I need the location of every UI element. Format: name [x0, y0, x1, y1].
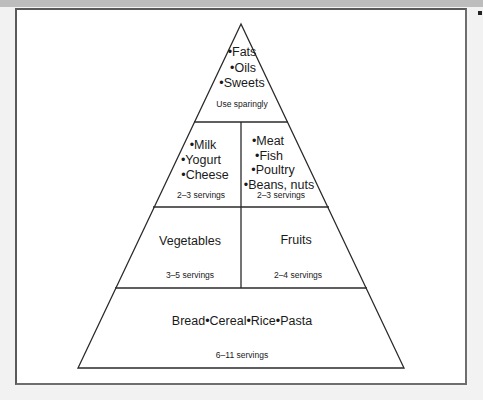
food-pyramid-outline	[0, 0, 483, 400]
tier1-item-fats: •Fats	[228, 45, 257, 60]
tier2-right-item-poultry: •Poultry	[251, 163, 294, 178]
tier2-left-servings: 2–3 servings	[177, 190, 225, 200]
tier2-right-item-meat: •Meat	[252, 134, 284, 149]
tier3-left-servings: 3–5 servings	[166, 270, 214, 280]
tier1-item-sweets: •Sweets	[219, 76, 264, 91]
tier2-right-servings: 2–3 servings	[257, 190, 305, 200]
tier4-servings: 6–11 servings	[216, 350, 268, 360]
tier3-right-servings: 2–4 servings	[274, 270, 322, 280]
tier1-servings: Use sparingly	[216, 99, 268, 109]
tier2-right-item-fish: •Fish	[255, 149, 283, 164]
tier3-right-item-fruits: Fruits	[280, 233, 311, 248]
tier2-left-item-yogurt: •Yogurt	[181, 153, 221, 168]
tier3-left-item-vegetables: Vegetables	[159, 234, 221, 249]
tier2-left-item-milk: •Milk	[190, 138, 217, 153]
tier4-item-grains: Bread•Cereal•Rice•Pasta	[172, 314, 312, 329]
tier1-item-oils: •Oils	[230, 61, 256, 76]
tier2-left-item-cheese: •Cheese	[181, 168, 228, 183]
